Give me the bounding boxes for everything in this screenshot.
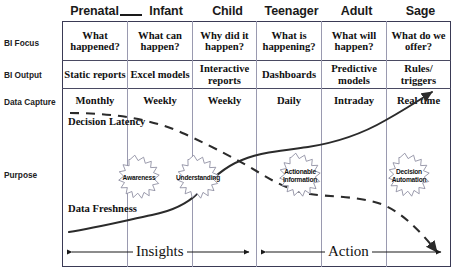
row-label-purpose: Purpose (4, 170, 60, 180)
row-label-bi-output: BI Output (4, 70, 60, 80)
column-header-prenatal: Prenatal (62, 3, 127, 20)
column-header-child: Child (195, 3, 260, 20)
burst-decision-automation-label: Decision Automation (388, 156, 430, 196)
burst-decision-automation-wrap: Decision Automation (388, 156, 430, 196)
cell-bi-focus-infant: What can happen? (128, 22, 192, 60)
cell-data-capture-infant: Weekly (128, 89, 192, 113)
cell-bi-output-teenager: Dashboards (257, 61, 321, 88)
row-label-bi-focus: BI Focus (4, 38, 60, 48)
burst-actionable-information-wrap: Actionable Information (279, 156, 321, 196)
cell-bi-focus-child: Why did it happen? (193, 22, 256, 60)
burst-awareness-label: Awareness (118, 158, 160, 198)
burst-understanding-label: Understanding (177, 158, 219, 198)
cell-data-capture-prenatal: Monthly (63, 89, 127, 113)
cell-bi-output-infant: Excel models (128, 61, 192, 88)
data-freshness-label: Data Freshness (68, 203, 130, 215)
diagram-canvas: Prenatal Infant Child Teenager Adult Sag… (0, 0, 454, 275)
cell-data-capture-teenager: Daily (257, 89, 321, 113)
cell-bi-output-adult: Predictive models (322, 61, 386, 88)
phase-label-insights: Insights (133, 243, 187, 259)
cell-bi-output-prenatal: Static reports (63, 61, 127, 88)
cell-bi-output-child: Interactive reports (193, 61, 256, 88)
decision-latency-label: Decision Latency (68, 116, 130, 128)
column-header-sage: Sage (388, 3, 453, 20)
cell-data-capture-adult: Intraday (322, 89, 386, 113)
burst-understanding-wrap: Understanding (177, 158, 219, 198)
cell-bi-output-sage: Rules/ triggers (387, 61, 450, 88)
cell-data-capture-child: Weekly (193, 89, 256, 113)
column-header-teenager: Teenager (259, 3, 324, 20)
column-header-row: Prenatal Infant Child Teenager Adult Sag… (62, 3, 451, 20)
column-header-infant: Infant (136, 3, 196, 20)
cell-bi-focus-prenatal: What happened? (63, 22, 127, 60)
cell-bi-focus-adult: What will happen? (322, 22, 386, 60)
data-freshness-label-text: Data Freshness (68, 203, 137, 214)
column-header-adult: Adult (324, 3, 389, 20)
cell-bi-focus-teenager: What is happening? (257, 22, 321, 60)
cell-bi-focus-sage: What do we offer? (387, 22, 450, 60)
decision-latency-label-text: Decision Latency (68, 116, 145, 127)
burst-awareness-wrap: Awareness (118, 158, 160, 198)
phase-label-action: Action (325, 243, 372, 259)
burst-actionable-information-label: Actionable Information (279, 156, 321, 196)
cell-data-capture-sage: Real time (387, 89, 450, 113)
row-label-data-capture: Data Capture (4, 97, 60, 107)
